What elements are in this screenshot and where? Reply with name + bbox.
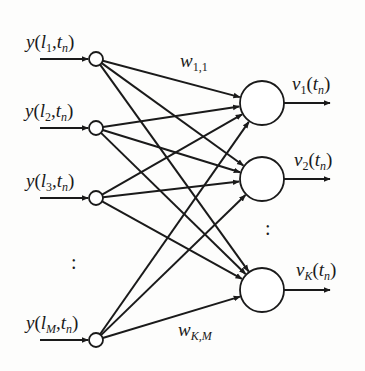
input-ellipsis: :	[71, 252, 77, 272]
input-label-3: y(l3,tn)	[26, 171, 74, 190]
output-label-2: v2(tn)	[294, 150, 332, 169]
edge-in3-out2	[103, 182, 239, 198]
neural-network-diagram: y(l1,tn) y(l2,tn) y(l3,tn) y(lM,tn) : v1…	[0, 0, 365, 371]
input-node-inM	[89, 333, 103, 347]
connection-edges	[100, 61, 249, 338]
edge-inM-outK	[103, 297, 240, 338]
output-ellipsis: :	[265, 218, 271, 238]
input-node-in1	[89, 52, 103, 66]
input-node-in3	[89, 191, 103, 205]
edge-inM-out2	[101, 195, 245, 335]
weight-label-w11: w1,1	[180, 51, 208, 70]
input-label-M: y(lM,tn)	[26, 313, 78, 332]
nodes	[89, 52, 284, 347]
edge-in2-out1	[103, 106, 239, 127]
output-label-1: v1(tn)	[292, 74, 330, 93]
input-label-2: y(l2,tn)	[25, 101, 73, 120]
edge-in2-out2	[103, 130, 240, 172]
output-node-outK	[240, 268, 284, 312]
output-node-out2	[240, 157, 284, 201]
io-arrows	[40, 59, 330, 340]
input-node-in2	[89, 121, 103, 135]
input-label-1: y(l1,tn)	[26, 32, 74, 51]
weight-label-wKM: wK,M	[178, 320, 212, 339]
output-node-out1	[240, 81, 284, 125]
output-label-K: vK(tn)	[296, 260, 336, 279]
